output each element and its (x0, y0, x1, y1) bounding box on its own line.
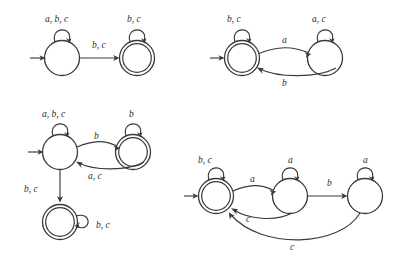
transition-q1-q0 (257, 67, 336, 75)
state-q1[interactable] (116, 135, 151, 170)
self-loop-label-q0: b, c (227, 14, 242, 24)
transition-q0-q1 (233, 186, 276, 196)
transition-label-q2-q0: c (290, 242, 295, 252)
state-q0[interactable] (45, 41, 80, 76)
start-arrow-automaton-1 (30, 55, 46, 61)
automaton-4: b, c a a a c b c (184, 155, 383, 252)
state-q0[interactable] (199, 179, 234, 214)
transition-label-q0-q1: b, c (92, 40, 107, 50)
transition-q0-q1 (77, 142, 120, 152)
transition-label-q1-q0: b (282, 78, 287, 88)
state-q1[interactable] (120, 41, 155, 76)
transition-q1-q0 (231, 208, 292, 218)
automaton-3: a, b, c b b, c b a, c b, c (24, 109, 151, 240)
transition-q1-q2 (308, 193, 348, 199)
self-loop-label-q1: a, c (312, 14, 327, 24)
transition-label-q1-q2: b (327, 178, 332, 188)
state-q1[interactable] (308, 41, 343, 76)
transition-label-q0-q1: b (94, 131, 99, 141)
self-loop-label-q0: a, b, c (42, 109, 66, 119)
transition-label-q0-q2: b, c (24, 184, 39, 194)
start-arrow-automaton-3 (28, 149, 44, 155)
transition-q0-q1 (259, 48, 311, 58)
self-loop-label-q1: b (129, 109, 134, 119)
state-q2[interactable] (348, 179, 383, 214)
self-loop-label-q1: a (288, 155, 293, 165)
transition-label-q0-q1: a (282, 35, 287, 45)
self-loop-label-q2: a (363, 155, 368, 165)
start-arrow-automaton-2 (210, 55, 225, 61)
automaton-2: b, c a, c a b (210, 14, 343, 88)
state-q1[interactable] (273, 179, 308, 214)
transition-q0-q1 (80, 55, 120, 61)
self-loop-label-q1: b, c (127, 14, 142, 24)
state-q0[interactable] (225, 41, 260, 76)
self-loop-label-q0: a, b, c (45, 14, 69, 24)
transition-q1-q0 (76, 161, 144, 168)
state-q2[interactable] (43, 205, 78, 240)
start-arrow-automaton-4 (184, 193, 199, 199)
transition-q0-q2 (57, 170, 63, 203)
transition-label-q1-q0: c (246, 214, 251, 224)
automaton-1: a, b, c b, c b, c (30, 14, 155, 76)
self-loop-label-q2: b, c (96, 220, 111, 230)
self-loop-label-q0: b, c (198, 155, 213, 165)
transition-label-q1-q0: a, c (88, 171, 103, 181)
state-q0[interactable] (43, 135, 78, 170)
transition-label-q0-q1: a (250, 174, 255, 184)
automata-figure: a, b, c b, c b, c b, c (0, 0, 395, 256)
